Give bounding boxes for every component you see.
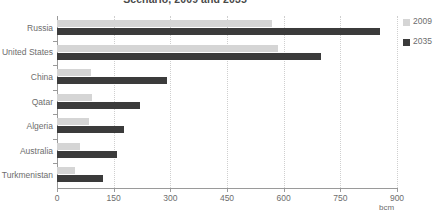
y-tick-mark-4 <box>53 114 57 115</box>
y-tick-mark-1 <box>53 41 57 42</box>
y-axis-category-labels: RussiaUnited StatesChinaQatarAlgeriaAust… <box>0 16 53 188</box>
plot-area <box>57 16 397 188</box>
legend-label-2035: 2035 <box>413 36 432 46</box>
x-tick-label-450: 450 <box>207 193 247 203</box>
bar-group <box>57 65 397 90</box>
bar-united-states-2035 <box>57 53 321 60</box>
x-tick-label-300: 300 <box>150 193 190 203</box>
y-axis-label-qatar: Qatar <box>0 97 53 107</box>
bar-group <box>57 163 397 188</box>
legend-item-2009[interactable]: 2009 <box>403 17 440 37</box>
x-tick-mark-600 <box>284 188 285 192</box>
bar-china-2035 <box>57 77 167 84</box>
y-axis-label-turkmenistan: Turkmenistan <box>0 170 53 180</box>
legend-swatch-2009 <box>403 19 410 26</box>
x-tick-mark-450 <box>227 188 228 192</box>
x-tick-label-900: 900 <box>377 193 417 203</box>
y-axis-label-united-states: United States <box>0 47 53 57</box>
x-tick-mark-900 <box>397 188 398 192</box>
bar-turkmenistan-2035 <box>57 175 103 182</box>
chart-legend: 20092035 <box>403 17 440 57</box>
bar-russia-2009 <box>57 20 272 27</box>
gridline-900 <box>397 16 398 188</box>
legend-item-2035[interactable]: 2035 <box>403 37 440 57</box>
bar-qatar-2035 <box>57 102 140 109</box>
legend-swatch-2035 <box>403 39 410 46</box>
bar-russia-2035 <box>57 28 380 35</box>
x-axis-unit-label: bcm <box>379 203 394 212</box>
x-tick-label-600: 600 <box>264 193 304 203</box>
y-axis-label-russia: Russia <box>0 23 53 33</box>
y-tick-mark-3 <box>53 90 57 91</box>
y-tick-mark-5 <box>53 139 57 140</box>
bar-chart: Scenario, 2009 and 2035 RussiaUnited Sta… <box>0 0 440 215</box>
x-tick-label-0: 0 <box>37 193 77 203</box>
y-axis-label-china: China <box>0 72 53 82</box>
y-tick-mark-6 <box>53 163 57 164</box>
bar-australia-2035 <box>57 151 117 158</box>
y-axis-label-algeria: Algeria <box>0 121 53 131</box>
bar-group <box>57 90 397 115</box>
chart-title: Scenario, 2009 and 2035 <box>60 0 310 5</box>
bar-australia-2009 <box>57 143 80 150</box>
bar-group <box>57 41 397 66</box>
y-tick-mark-2 <box>53 65 57 66</box>
x-tick-mark-750 <box>340 188 341 192</box>
bar-group <box>57 114 397 139</box>
bar-china-2009 <box>57 69 91 76</box>
x-tick-label-750: 750 <box>320 193 360 203</box>
x-tick-mark-300 <box>170 188 171 192</box>
bar-turkmenistan-2009 <box>57 167 75 174</box>
bar-group <box>57 139 397 164</box>
bar-algeria-2035 <box>57 126 124 133</box>
x-tick-mark-0 <box>57 188 58 192</box>
bar-group <box>57 16 397 41</box>
bar-algeria-2009 <box>57 118 89 125</box>
bar-qatar-2009 <box>57 94 92 101</box>
legend-label-2009: 2009 <box>413 16 432 26</box>
x-tick-label-150: 150 <box>94 193 134 203</box>
x-tick-mark-150 <box>114 188 115 192</box>
y-axis-label-australia: Australia <box>0 146 53 156</box>
bar-united-states-2009 <box>57 45 278 52</box>
